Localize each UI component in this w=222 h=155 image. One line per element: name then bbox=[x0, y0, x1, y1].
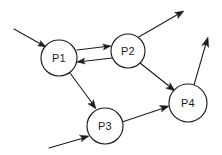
arrow-head-p4-to-out bbox=[202, 36, 212, 48]
edge-p2-to-p1 bbox=[77, 58, 112, 65]
node-p4-label: P4 bbox=[181, 97, 195, 109]
edge-in-to-p1 bbox=[14, 29, 47, 50]
edge-p4-to-out bbox=[194, 36, 211, 85]
node-p2[interactable]: P2 bbox=[111, 34, 145, 68]
nodes-layer: P1 P2 P3 P4 bbox=[41, 34, 207, 144]
node-p2-label: P2 bbox=[121, 45, 135, 57]
edge-p3-to-p4 bbox=[122, 103, 170, 122]
edge-p1-to-p3 bbox=[70, 73, 99, 111]
node-p1[interactable]: P1 bbox=[41, 40, 77, 76]
edge-line-p3-to-p4 bbox=[122, 107, 167, 122]
arrow-head-p3-to-p4 bbox=[159, 103, 170, 112]
edge-line-in-to-p3 bbox=[49, 137, 87, 148]
edge-p2-to-out bbox=[137, 8, 186, 38]
node-p1-label: P1 bbox=[52, 52, 66, 64]
edge-p2-to-p4 bbox=[140, 63, 177, 94]
edge-line-p4-to-out bbox=[194, 40, 207, 85]
arrow-head-p2-to-out bbox=[175, 8, 186, 18]
edge-in-to-p3 bbox=[49, 133, 90, 148]
edge-line-p2-to-out bbox=[137, 12, 182, 38]
diagram-canvas: P1 P2 P3 P4 bbox=[0, 0, 222, 155]
node-p3-label: P3 bbox=[98, 120, 112, 132]
edge-line-p2-to-p4 bbox=[140, 63, 174, 90]
node-p3[interactable]: P3 bbox=[87, 108, 123, 144]
edge-p1-to-p2 bbox=[77, 43, 111, 50]
node-p4[interactable]: P4 bbox=[169, 84, 207, 122]
process-graph-svg: P1 P2 P3 P4 bbox=[0, 0, 222, 155]
edge-line-p1-to-p3 bbox=[70, 73, 95, 107]
